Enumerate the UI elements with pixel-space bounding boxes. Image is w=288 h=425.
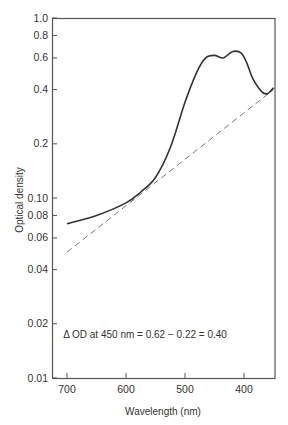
y-tick-label: 0.8 — [33, 29, 48, 41]
y-tick-label: 0.02 — [28, 317, 49, 329]
baseline-dashed-line — [67, 90, 274, 253]
x-tick-label: 400 — [235, 383, 253, 395]
x-tick-label: 700 — [58, 383, 76, 395]
delta-od-annotation: Δ OD at 450 nm = 0.62 − 0.22 = 0.40 — [63, 329, 227, 340]
y-tick-label: 1.0 — [33, 12, 48, 24]
spectrum-curve — [67, 51, 274, 224]
y-tick-label: 0.4 — [33, 83, 48, 95]
y-axis-label: Optical density — [14, 167, 25, 233]
y-tick-label: 0.04 — [28, 263, 49, 275]
plot-frame — [53, 19, 276, 379]
y-tick-label: 0.2 — [33, 137, 48, 149]
y-tick-label: 0.10 — [28, 192, 49, 204]
y-tick-label: 0.01 — [28, 372, 49, 384]
optical-density-chart: 1.00.80.60.40.20.100.080.060.040.020.01 … — [0, 0, 288, 425]
y-tick-label: 0.6 — [33, 51, 48, 63]
x-tick-label: 500 — [176, 383, 194, 395]
x-axis-ticks: 700600500400 — [58, 373, 253, 395]
y-tick-label: 0.08 — [28, 209, 49, 221]
x-axis-label: Wavelength (nm) — [125, 406, 201, 417]
x-tick-label: 600 — [117, 383, 135, 395]
y-tick-label: 0.06 — [28, 231, 49, 243]
